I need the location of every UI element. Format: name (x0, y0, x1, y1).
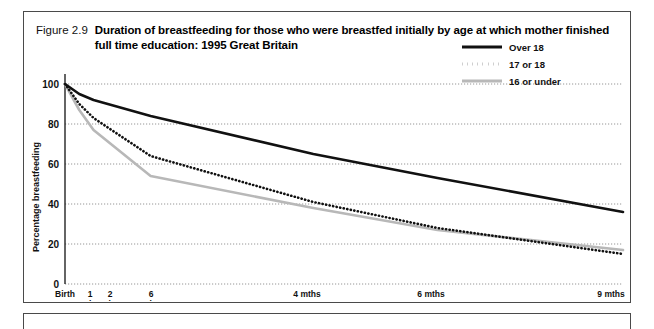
legend-label-16-or-under: 16 or under (509, 76, 561, 87)
legend-label-17-or-18: 17 or 18 (509, 59, 545, 70)
x-tick-label-1wk-line1: 1 (88, 289, 93, 299)
x-tick-label-4mths: 4 mths (293, 289, 321, 299)
series-line-17-or-18 (65, 84, 623, 254)
x-tick-label-6wks-line1: 6 (149, 289, 154, 299)
line-chart: 0 20 40 60 80 100 Percentage breastfeedi… (24, 12, 629, 301)
y-tick-label: 40 (48, 199, 60, 210)
series-line-16-or-under (65, 84, 623, 250)
x-tick-label-1wk-line2: wk (81, 299, 94, 301)
x-tick-label-2wks-line1: 2 (108, 289, 113, 299)
figure-screenshot: Figure 2.9 Duration of breastfeeding for… (0, 0, 654, 329)
x-tick-label-6wks-line2: wks (142, 299, 159, 301)
y-axis-title: Percentage breastfeeding (31, 142, 41, 252)
figure-bottom-strip (23, 313, 631, 329)
x-tick-label-2wks-line2: wks (101, 299, 118, 301)
series-line-over-18 (65, 84, 623, 212)
figure-panel: Figure 2.9 Duration of breastfeeding for… (23, 11, 631, 303)
y-tick-label: 60 (48, 159, 60, 170)
chart-plot-area: 0 20 40 60 80 100 Percentage breastfeedi… (24, 12, 629, 301)
legend-label-over-18: Over 18 (509, 42, 544, 53)
x-tick-label-6mths: 6 mths (417, 289, 445, 299)
y-tick-label: 100 (42, 79, 59, 90)
x-tick-label-9mths: 9 mths (597, 289, 625, 299)
y-tick-label: 20 (48, 239, 60, 250)
y-tick-label: 80 (48, 119, 60, 130)
x-tick-labels: Birth 1 wk 2 wks 6 wks 4 mths 6 mths 9 m… (55, 289, 625, 301)
gridlines (65, 84, 623, 284)
x-tick-label-birth-line1: Birth (55, 289, 75, 299)
chart-legend: Over 18 17 or 18 16 or under (462, 42, 561, 87)
